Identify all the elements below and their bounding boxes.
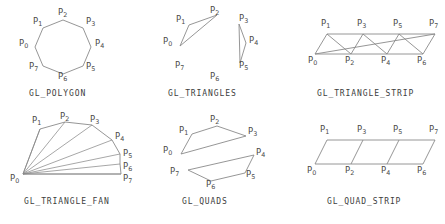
vertex-label: P5 [86,62,95,72]
gl-polygon-shape [10,4,150,86]
vertex-label: P6 [417,166,426,176]
panel-caption: GL_TRIANGLE_STRIP [317,90,414,98]
vertex-label: P0 [19,39,28,49]
vertex-label: P3 [248,127,257,137]
vertex-label: P7 [29,62,38,72]
vertex-label: P4 [95,39,104,49]
vertex-label: P5 [123,149,132,159]
vertex-label: P1 [33,17,42,27]
vertex-label: P7 [170,167,179,177]
panel-caption: GL_QUAD_STRIP [327,198,401,206]
vertex-label: P3 [86,17,95,27]
vertex-label: P7 [123,174,132,184]
vertex-label: P6 [123,162,132,172]
vertex-label: P3 [239,14,248,24]
vertex-label: P3 [357,125,366,135]
vertex-label: P2 [210,6,219,16]
vertex-label: P5 [393,19,402,29]
vertex-label: P1 [176,15,185,25]
vertex-label: P6 [210,72,219,82]
vertex-label: P6 [417,56,426,66]
vertex-label: P2 [60,112,69,122]
panel-caption: GL_TRIANGLES [168,90,237,98]
vertex-label: P2 [345,166,354,176]
vertex-label: P2 [210,115,219,125]
panel-gl-triangles: P0 P1 P2 P3 P4 P5 P6 P7 GL_TRIANGLES [160,4,300,104]
vertex-label: P4 [249,36,258,46]
vertex-label: P7 [429,125,438,135]
primitives-figure: P0 P1 P2 P3 P4 P5 P6 P7 GL_POLYGON P0 P1… [0,0,445,224]
panel-gl-polygon: P0 P1 P2 P3 P4 P5 P6 P7 GL_POLYGON [10,4,150,104]
vertex-label: P1 [320,125,329,135]
vertex-label: P7 [175,61,184,71]
vertex-label: P5 [393,125,402,135]
gl-triangle-strip-shape [305,4,445,86]
panel-gl-quad-strip: P0 P1 P2 P3 P4 P5 P6 P7 GL_QUAD_STRIP [305,112,445,217]
vertex-label: P3 [357,19,366,29]
vertex-label: P2 [58,8,67,18]
vertex-label: P4 [256,148,265,158]
vertex-label: P4 [381,56,390,66]
panel-caption: GL_TRIANGLE_FAN [24,198,110,206]
vertex-label: P2 [345,56,354,66]
vertex-label: P0 [10,174,19,184]
vertex-label: P4 [115,132,124,142]
panel-gl-triangle-fan: P0 P1 P2 P3 P4 P5 P6 P7 GL_TRIANGLE_FAN [10,112,150,217]
vertex-label: P0 [307,166,316,176]
vertex-label: P0 [163,37,172,47]
vertex-label: P0 [163,146,172,156]
vertex-label: P3 [90,115,99,125]
vertex-label: P5 [239,61,248,71]
panel-gl-quads: P0 P1 P2 P3 P4 P5 P6 P7 GL_QUADS [160,112,300,217]
vertex-label: P6 [58,72,67,82]
vertex-label: P4 [381,166,390,176]
vertex-label: P6 [206,180,215,190]
vertex-label: P1 [321,19,330,29]
vertex-label: P7 [429,19,438,29]
vertex-label: P5 [246,170,255,180]
vertex-label: P1 [32,116,41,126]
panel-gl-triangle-strip: P0 P1 P2 P3 P4 P5 P6 P7 GL_TRIANGLE_STRI… [305,4,445,104]
panel-caption: GL_POLYGON [29,90,86,98]
panel-caption: GL_QUADS [182,198,228,206]
vertex-label: P0 [308,56,317,66]
vertex-label: P1 [179,126,188,136]
